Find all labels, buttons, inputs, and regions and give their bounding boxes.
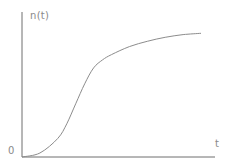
sigmoid-curve bbox=[22, 33, 201, 157]
chart-canvas bbox=[0, 0, 231, 164]
x-axis-label: t bbox=[215, 139, 219, 149]
origin-label: 0 bbox=[8, 146, 15, 156]
y-axis-label: n(t) bbox=[30, 11, 49, 21]
